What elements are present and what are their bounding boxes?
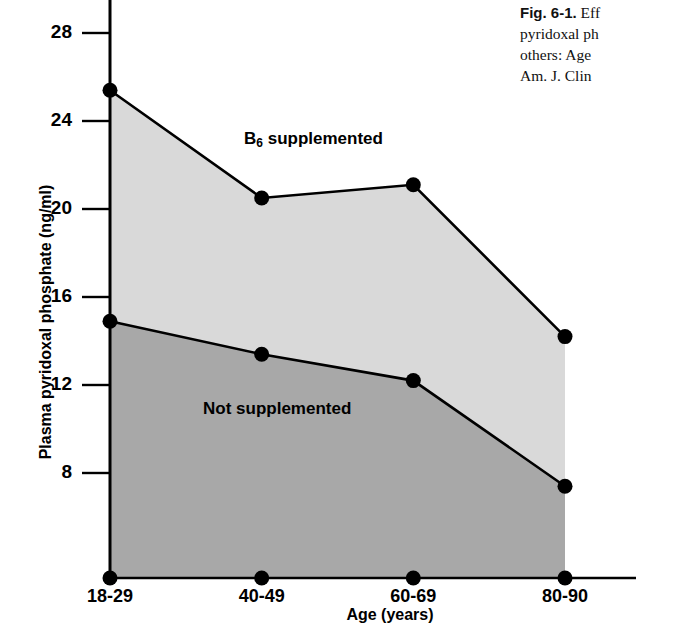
data-point-marker bbox=[558, 479, 573, 494]
y-axis-title: Plasma pyridoxal phosphate (ng/ml) bbox=[36, 172, 56, 472]
data-point-marker bbox=[558, 571, 573, 586]
x-tick-label: 80-90 bbox=[520, 586, 610, 607]
figure-container: Fig. 6-1. Eff pyridoxal ph others: Age A… bbox=[0, 0, 690, 642]
data-point-marker bbox=[254, 191, 269, 206]
data-point-marker bbox=[254, 347, 269, 362]
data-point-marker bbox=[103, 314, 118, 329]
data-point-marker bbox=[103, 571, 118, 586]
data-point-marker bbox=[103, 83, 118, 98]
data-point-marker bbox=[406, 571, 421, 586]
y-tick-label: 28 bbox=[38, 21, 72, 43]
data-point-marker bbox=[406, 177, 421, 192]
data-point-marker bbox=[406, 373, 421, 388]
x-axis-title: Age (years) bbox=[290, 606, 490, 624]
y-tick-label: 24 bbox=[38, 109, 72, 131]
data-point-marker bbox=[254, 571, 269, 586]
series-label-b6-supplemented: B6 supplemented bbox=[244, 129, 383, 150]
series-label-not-supplemented: Not supplemented bbox=[203, 399, 351, 419]
data-point-marker bbox=[558, 329, 573, 344]
y-axis-ticks bbox=[82, 33, 110, 473]
x-tick-label: 18-29 bbox=[65, 586, 155, 607]
x-tick-label: 40-49 bbox=[217, 586, 307, 607]
chart-plot-area bbox=[0, 0, 690, 642]
x-tick-label: 60-69 bbox=[368, 586, 458, 607]
